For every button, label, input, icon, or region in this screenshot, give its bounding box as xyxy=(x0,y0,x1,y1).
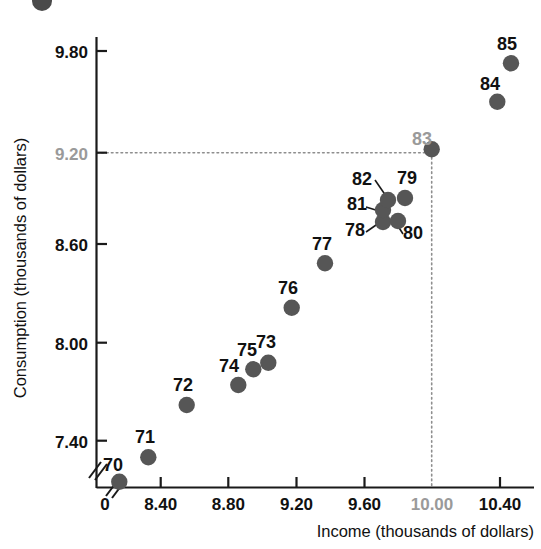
data-point-71 xyxy=(140,449,156,465)
x-tick-label-10.40: 10.40 xyxy=(479,495,522,514)
data-point-group-76: 76 xyxy=(278,278,300,316)
data-point-85 xyxy=(503,55,519,71)
point-label-78: 78 xyxy=(345,220,365,240)
point-label-80: 80 xyxy=(403,223,423,243)
y-tick-label-9.80: 9.80 xyxy=(55,43,88,62)
y-tick-label-8.60: 8.60 xyxy=(55,236,88,255)
data-point-group-74: 74 xyxy=(219,356,247,393)
data-point-group-80: 80 xyxy=(390,213,423,243)
data-point-70 xyxy=(111,474,127,490)
data-point-73 xyxy=(260,355,276,371)
point-label-85: 85 xyxy=(497,34,517,54)
y-tick-label-9.20: 9.20 xyxy=(55,145,88,164)
y-axis-title: Consumption (thousands of dollars) xyxy=(11,138,29,398)
point-label-76: 76 xyxy=(278,278,298,298)
x-tick-label-9.20: 9.20 xyxy=(280,495,313,514)
axes xyxy=(89,37,534,498)
point-label-72: 72 xyxy=(173,375,193,395)
point-label-82: 82 xyxy=(352,169,372,189)
y-axis-ticks: 9.80 9.20 8.60 8.00 7.40 xyxy=(55,43,107,452)
data-point-group-71: 71 xyxy=(135,427,157,465)
point-label-79: 79 xyxy=(397,168,417,188)
data-points-layer: 70717273747576777879808182838485 xyxy=(103,34,519,490)
data-point-84 xyxy=(489,94,505,110)
data-point-74 xyxy=(230,377,246,393)
x-tick-label-8.40: 8.40 xyxy=(144,495,177,514)
point-label-77: 77 xyxy=(312,234,332,254)
scatter-chart: 9.80 9.20 8.60 8.00 7.40 0 8.40 8.80 9.2… xyxy=(0,0,541,549)
data-point-group-79: 79 xyxy=(397,168,417,206)
chart-canvas: 9.80 9.20 8.60 8.00 7.40 0 8.40 8.80 9.2… xyxy=(0,0,541,549)
y-tick-label-7.40: 7.40 xyxy=(55,433,88,452)
x-tick-label-origin: 0 xyxy=(100,495,109,514)
y-tick-label-8.00: 8.00 xyxy=(55,335,88,354)
x-axis-ticks: 0 8.40 8.80 9.20 9.60 10.00 10.40 xyxy=(100,477,521,514)
point-label-70: 70 xyxy=(103,455,123,475)
x-tick-label-10.00: 10.00 xyxy=(411,495,454,514)
data-point-76 xyxy=(284,300,300,316)
point-label-71: 71 xyxy=(135,427,155,447)
point-label-81: 81 xyxy=(347,194,367,214)
data-point-group-85: 85 xyxy=(497,34,519,72)
x-axis-title: Income (thousands of dollars) xyxy=(317,522,534,540)
data-point-group-77: 77 xyxy=(312,234,333,272)
data-point-72 xyxy=(179,397,195,413)
data-point-group-70: 70 xyxy=(103,455,128,490)
point-label-73: 73 xyxy=(256,332,276,352)
data-point-75 xyxy=(245,361,261,377)
data-point-group-83: 83 xyxy=(412,129,440,158)
data-point-group-72: 72 xyxy=(173,375,195,413)
point-label-84: 84 xyxy=(480,74,500,94)
data-point-77 xyxy=(317,255,333,271)
data-point-group-84: 84 xyxy=(480,74,505,110)
point-label-75: 75 xyxy=(237,340,257,360)
point-label-83: 83 xyxy=(412,129,432,149)
data-point-79 xyxy=(397,190,413,206)
x-tick-label-8.80: 8.80 xyxy=(212,495,245,514)
data-point-82 xyxy=(380,192,396,208)
x-tick-label-9.60: 9.60 xyxy=(348,495,381,514)
